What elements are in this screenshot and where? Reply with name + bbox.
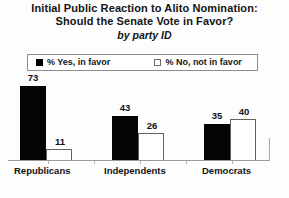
bar-value-no-republicans: 11: [47, 137, 73, 147]
chart-subtitle: by party ID: [0, 28, 289, 42]
bar-yes-democrats: 35: [204, 124, 230, 160]
legend-swatch-open-square-icon: [154, 59, 161, 66]
axis-tick: [140, 161, 141, 164]
bar-value-no-democrats: 40: [231, 107, 257, 117]
legend-item-no: % No, not in favor: [154, 58, 242, 67]
legend-swatch-filled-square-icon: [36, 59, 43, 66]
axis-tick: [232, 161, 233, 164]
axis-right-cap: [269, 138, 270, 161]
bar-no-independents: 26: [138, 133, 164, 160]
axis-tick: [48, 161, 49, 164]
bar-pair: 43 26: [112, 116, 164, 160]
bar-value-yes-democrats: 35: [204, 111, 230, 121]
legend-label-yes: % Yes, in favor: [47, 58, 110, 67]
chart-legend: % Yes, in favor % No, not in favor: [27, 54, 258, 71]
chart-title-line-1: Initial Public Reaction to Alito Nominat…: [0, 2, 289, 15]
category-label-republicans: Republicans: [14, 165, 71, 176]
bar-value-yes-republicans: 73: [20, 73, 46, 83]
bar-pair: 35 40: [204, 119, 256, 160]
category-label-independents: Independents: [104, 165, 166, 176]
legend-label-no: % No, not in favor: [165, 58, 242, 67]
axis-tick: [186, 161, 187, 164]
chart-figure: Initial Public Reaction to Alito Nominat…: [0, 0, 289, 198]
axis-tick: [94, 161, 95, 164]
plot-area: 73 11 43 26 35: [0, 78, 289, 162]
category-axis-labels: Republicans Independents Democrats: [0, 165, 289, 179]
bar-value-no-independents: 26: [139, 121, 165, 131]
chart-title-line-2: Should the Senate Vote in Favor?: [0, 15, 289, 28]
legend-item-yes: % Yes, in favor: [36, 58, 110, 67]
title-block: Initial Public Reaction to Alito Nominat…: [0, 2, 289, 42]
bar-yes-independents: 43: [112, 116, 138, 160]
bar-no-republicans: 11: [46, 149, 72, 160]
bar-no-democrats: 40: [230, 119, 256, 160]
bar-pair: 73 11: [20, 86, 72, 160]
bar-yes-republicans: 73: [20, 86, 46, 160]
bar-value-yes-independents: 43: [112, 103, 138, 113]
category-label-democrats: Democrats: [202, 165, 251, 176]
